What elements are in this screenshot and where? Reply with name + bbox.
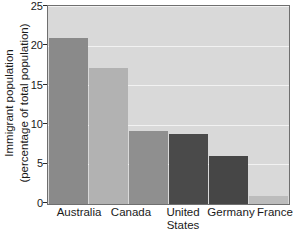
y-axis-tick-labels: 25 20 15 10 5 0 xyxy=(22,0,43,230)
bar-germany xyxy=(169,134,208,204)
bar-united-states xyxy=(129,131,168,204)
x-tick-label-france: France xyxy=(251,206,296,219)
y-tick-label-0: 0 xyxy=(22,198,43,209)
y-tick-label-15: 15 xyxy=(22,80,43,91)
x-tick-label-states: States xyxy=(159,219,207,230)
bar-france xyxy=(209,156,248,204)
y-tick-label-25: 25 xyxy=(22,1,43,12)
x-tick-label-united: United xyxy=(166,206,199,218)
x-tick-label-australia: Australia xyxy=(47,206,111,219)
bar-series xyxy=(48,6,289,204)
bar-chart-figure: Immigrant population (percentage of tota… xyxy=(0,0,296,230)
bar-japan xyxy=(249,196,288,204)
bar-canada xyxy=(89,68,128,204)
x-tick-label-united-states: UnitedStates xyxy=(159,206,207,230)
x-tick-label-canada: Canada xyxy=(103,206,159,219)
x-axis-tick-labels: Australia Canada UnitedStates Germany Fr… xyxy=(47,206,288,230)
bar-australia xyxy=(49,38,88,204)
plot-area xyxy=(47,5,290,205)
y-axis-title-line1: Immigrant population xyxy=(2,23,17,182)
y-tick-label-5: 5 xyxy=(22,158,43,169)
y-tick-label-20: 20 xyxy=(22,40,43,51)
y-tick-label-10: 10 xyxy=(22,119,43,130)
